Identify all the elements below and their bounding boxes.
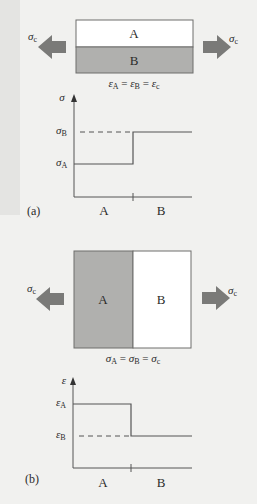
layer-a-label: A bbox=[98, 292, 108, 307]
x-label-a: A bbox=[99, 203, 109, 218]
isostress-condition: σA = σB = σc bbox=[106, 352, 161, 366]
load-arrow-left-b: σc bbox=[27, 282, 64, 311]
load-arrow-right-a: σc bbox=[203, 32, 238, 59]
arrow-right-icon bbox=[203, 35, 231, 59]
specimen-b: A B bbox=[74, 251, 191, 348]
layer-b-label: B bbox=[130, 53, 139, 68]
y-axis-label-epsilon: ε bbox=[62, 374, 67, 386]
panel-label-b: (b) bbox=[25, 472, 39, 486]
layer-a-label: A bbox=[129, 26, 139, 41]
load-arrow-right-b: σc bbox=[202, 284, 237, 310]
y-tick-sigma-b: σB bbox=[56, 124, 67, 138]
arrow-right-icon bbox=[202, 286, 230, 310]
y-tick-sigma-a: σA bbox=[56, 156, 67, 170]
specimen-a: A B bbox=[76, 20, 193, 73]
strain-step-line bbox=[73, 404, 192, 436]
y-tick-epsilon-b: εB bbox=[56, 428, 66, 442]
arrow-left-icon bbox=[38, 35, 66, 59]
isostrain-condition: εA = εB = εc bbox=[108, 77, 160, 91]
panel-label-a: (a) bbox=[27, 204, 40, 218]
strain-plot-b: ε εA εB A B (b) bbox=[25, 374, 192, 490]
x-label-b: B bbox=[157, 475, 166, 490]
sigma-c-left-a: σc bbox=[28, 30, 37, 44]
y-axis-label-sigma: σ bbox=[59, 91, 65, 103]
panel-a: A B σc σc εA = εB = εc σ σB σA bbox=[27, 20, 238, 218]
x-label-a: A bbox=[98, 475, 108, 490]
layer-b-label: B bbox=[157, 292, 166, 307]
y-axis-arrow-icon bbox=[71, 94, 77, 102]
composite-loading-figure: A B σc σc εA = εB = εc σ σB σA bbox=[0, 0, 257, 504]
stress-step-line bbox=[74, 132, 192, 164]
y-axis-arrow-icon bbox=[70, 377, 76, 385]
panel-b: A B σc σc σA = σB = σc ε εA εB bbox=[25, 251, 237, 490]
sigma-c-left-b: σc bbox=[27, 282, 36, 296]
load-arrow-left-a: σc bbox=[28, 30, 66, 59]
y-tick-epsilon-a: εA bbox=[56, 396, 66, 410]
arrow-left-icon bbox=[36, 287, 64, 311]
x-label-b: B bbox=[157, 203, 166, 218]
sigma-c-right-b: σc bbox=[228, 284, 237, 298]
sigma-c-right-a: σc bbox=[229, 32, 238, 46]
stress-plot-a: σ σB σA A B (a) bbox=[27, 91, 192, 218]
